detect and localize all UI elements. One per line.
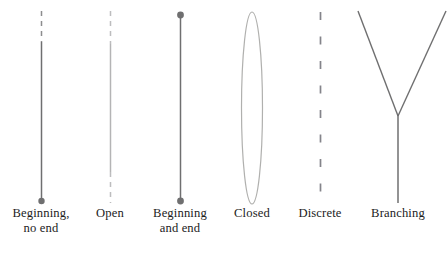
caption-branching: Branching	[338, 206, 447, 221]
timeline-beginning-and-end	[177, 12, 184, 205]
branch-arm-right	[398, 11, 446, 116]
branch-arm-left	[358, 11, 398, 116]
timeline-beginning-no-end	[38, 11, 44, 204]
timeline-closed	[242, 12, 263, 204]
timeline-types-figure: Beginning, no end Open Beginning and end…	[0, 0, 447, 253]
endpoint-dot-bottom	[38, 198, 44, 204]
closed-loop-ellipse	[242, 12, 263, 204]
endpoint-dot-top	[177, 12, 184, 19]
endpoint-dot-bottom	[177, 198, 184, 205]
timeline-branching	[358, 11, 446, 203]
